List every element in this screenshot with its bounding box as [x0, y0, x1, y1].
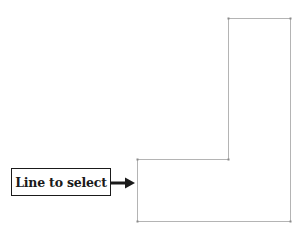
callout-label: Line to select [15, 175, 107, 190]
l-shape-outline [138, 19, 291, 222]
callout-label-box: Line to select [11, 168, 111, 196]
arrow-right-icon [111, 178, 135, 189]
vertex-marker [137, 159, 139, 161]
vertex-marker [228, 18, 230, 20]
vertex-markers [137, 18, 292, 223]
vertex-marker [228, 159, 230, 161]
vertex-marker [290, 18, 292, 20]
diagram-canvas [0, 0, 305, 233]
vertex-marker [137, 221, 139, 223]
vertex-marker [290, 221, 292, 223]
